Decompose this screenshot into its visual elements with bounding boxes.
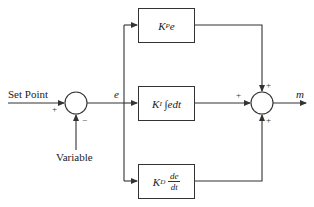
error-label: e	[114, 88, 119, 100]
summing-junction-2	[251, 92, 273, 114]
derivative-numerator: de	[170, 171, 179, 181]
derivative-block: KD de dt	[138, 164, 195, 199]
integral-block: KI ∫edt	[138, 86, 195, 121]
derivative-subscript: D	[160, 178, 165, 186]
set-point-label: Set Point	[8, 88, 48, 100]
output-label: m	[296, 88, 304, 100]
integral-subscript: I	[159, 100, 161, 108]
proportional-expression: e	[170, 20, 175, 32]
derivative-fraction: de dt	[168, 171, 180, 192]
junction2-top-plus: +	[266, 80, 271, 90]
junction1-minus-sign: −	[82, 115, 87, 125]
junction2-left-plus: +	[236, 90, 241, 100]
junction2-bottom-plus: +	[266, 115, 271, 125]
proportional-gain: K	[158, 20, 165, 32]
integral-expression: ∫edt	[164, 98, 180, 110]
junction1-plus-sign: +	[52, 104, 57, 114]
summing-junction-1	[65, 92, 87, 114]
variable-label: Variable	[56, 151, 93, 163]
derivative-denominator: dt	[171, 182, 178, 192]
proportional-block: KPe	[138, 8, 195, 43]
